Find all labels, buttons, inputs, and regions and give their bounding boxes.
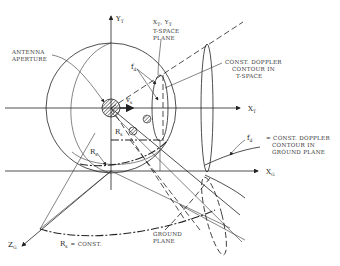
antenna-aperture [102,99,120,117]
tspace-label-1: XT, YT [153,19,172,27]
tspace-label-3: PLANE [153,35,175,41]
x-g-label: XG [266,168,275,177]
vs-label: vs [125,96,133,105]
ground-plane-label-2: PLANE [153,238,175,244]
doppler-contour-ground-lower [205,175,245,198]
doppler-g-label-3: GROUND PLANE [272,149,325,155]
antenna-leader [52,55,104,102]
ground-ray-2 [40,171,111,229]
fd-leader-1 [137,69,156,84]
x-t-label: XT [248,105,256,114]
doppler-contour-ground [205,147,260,165]
rs-mid-label: Rs [115,128,123,137]
rs-left-label: Rs [90,148,98,157]
y-t-label: YT [115,15,124,24]
tspace-label-2: T-SPACE [153,28,179,34]
ground-ray [111,171,230,228]
doppler-t-label-3: T-SPACE [236,73,262,79]
doppler-g-label-1: = CONST. DOPPLER [266,135,330,141]
fd-leader-2 [137,69,158,100]
antenna-label-2: APERTURE [11,56,47,62]
fd-right-label: fd [247,134,253,143]
doppler-g-label-2: CONTOUR IN [272,142,315,148]
doppler-t-label-1: CONST. DOPPLER [225,59,282,65]
target-blob-2 [129,127,137,135]
ground-plane-label-1: GROUND [153,231,182,237]
fd-upper-label: fd [131,63,137,72]
doppler-t-leader [165,63,222,88]
target-blob-1 [143,115,151,123]
rs-const-contour [40,210,215,236]
antenna-label-1: ANTENNA [11,49,45,55]
z-g-label: ZG [8,241,17,250]
doppler-t-label-2: CONTOUR IN [232,66,275,72]
tspace-leader [158,40,161,75]
rs-const-label: Rs= CONST. [60,240,102,249]
ground-parallel-line [180,205,245,240]
fd-ground-leader [230,140,245,155]
ground-hyperbola-left [165,178,210,230]
sphere-to-zg [40,133,95,229]
doppler-geometry-diagram: YT XT XG ZG ANTENNA APERTURE XT, YT T-SP… [0,0,340,266]
